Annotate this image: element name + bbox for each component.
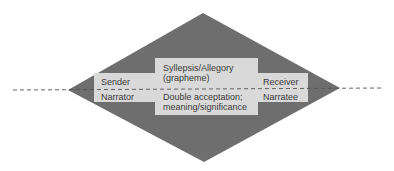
grapheme-label: (grapheme) (163, 73, 210, 83)
meaning-significance-label: meaning/significance (163, 102, 247, 112)
sender-label: Sender (101, 77, 130, 87)
syllepsis-allegory-label: Syllepsis/Allegory (163, 63, 234, 73)
narrator-label: Narrator (101, 92, 134, 102)
diagram-graphic (0, 0, 394, 171)
double-acceptation-label: Double acceptation; (163, 92, 243, 102)
narratee-label: Narratee (263, 92, 298, 102)
receiver-label: Receiver (263, 77, 299, 87)
diagram-canvas: Sender Narrator Syllepsis/Allegory (grap… (0, 0, 394, 171)
